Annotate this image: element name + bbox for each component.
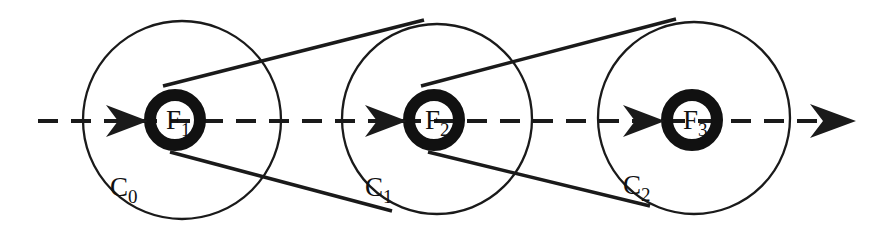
circle-label-c1: C bbox=[365, 172, 383, 202]
tangent-upper-f1-c1 bbox=[163, 20, 424, 86]
focus-label-f2-subscript: 2 bbox=[440, 119, 450, 140]
circle-label-c2-subscript: 2 bbox=[641, 184, 651, 205]
focus-label-f3-subscript: 3 bbox=[698, 119, 708, 140]
focus-label-f2: F bbox=[425, 105, 440, 135]
tangent-lower-f1-c1 bbox=[170, 152, 392, 211]
circle-label-c0: C bbox=[110, 172, 128, 202]
focus-label-f1-subscript: 1 bbox=[181, 119, 191, 140]
focus-label-f1: F bbox=[166, 105, 181, 135]
diagram-canvas: F 1 F 2 F 3 C 0 C 1 C 2 bbox=[0, 0, 889, 237]
circle-label-c2: C bbox=[623, 170, 641, 200]
arrow-into-f3-icon bbox=[623, 105, 665, 137]
focus-label-f3: F bbox=[683, 105, 698, 135]
circle-chain-diagram: F 1 F 2 F 3 C 0 C 1 C 2 bbox=[0, 0, 889, 237]
circle-label-c0-subscript: 0 bbox=[128, 186, 138, 207]
tangent-upper-f2-c2 bbox=[421, 19, 676, 86]
tangent-lower-f2-c2 bbox=[428, 152, 650, 206]
circle-label-c1-subscript: 1 bbox=[383, 186, 393, 207]
